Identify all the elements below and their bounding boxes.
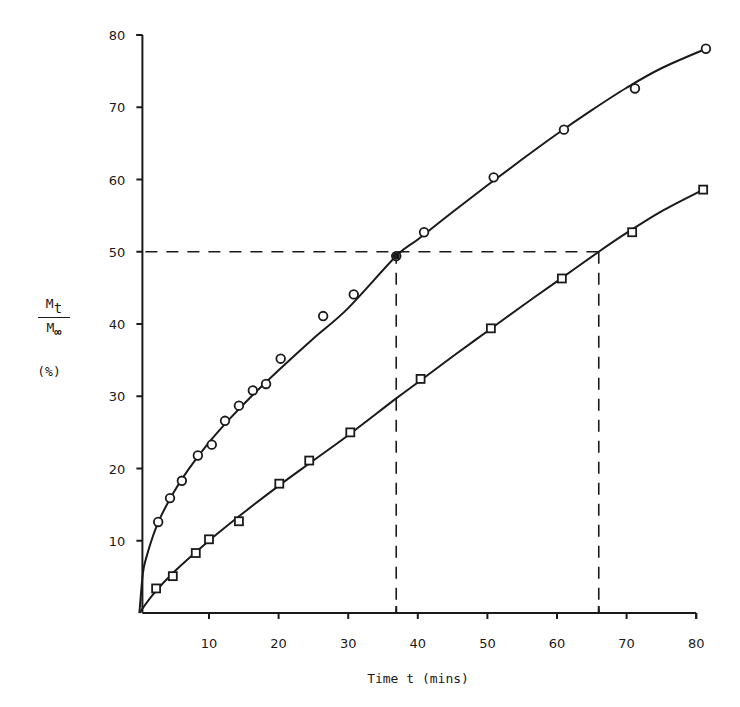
y-label-numerator-sub: t	[54, 300, 62, 316]
data-point-square	[235, 517, 243, 525]
x-tick-label: 10	[201, 636, 218, 651]
fit-curves	[139, 49, 706, 613]
data-point-circle	[194, 451, 203, 460]
data-markers	[152, 44, 710, 592]
y-tick-label: 60	[109, 173, 126, 188]
data-point-square	[628, 228, 636, 236]
data-point-circle	[249, 386, 258, 395]
data-point-circle	[560, 125, 569, 134]
data-point-square	[192, 549, 200, 557]
data-point-square	[558, 274, 566, 282]
y-tick-label: 40	[109, 317, 126, 332]
x-tick-label: 60	[549, 636, 566, 651]
x-tick-label: 30	[340, 636, 357, 651]
data-point-square	[205, 535, 213, 543]
data-point-circle	[221, 417, 230, 426]
y-tick-label: 80	[109, 28, 126, 43]
x-tick-label: 70	[618, 636, 635, 651]
data-point-square	[275, 480, 283, 488]
y-label-unit: (%)	[24, 364, 74, 379]
data-point-circle	[276, 354, 285, 363]
x-tick-label: 20	[270, 636, 287, 651]
dashed-guide-lines	[145, 252, 598, 613]
data-point-square	[417, 375, 425, 383]
data-point-circle	[702, 44, 711, 53]
y-axis-label: Mt M∞ (%)	[34, 296, 74, 379]
y-tick-label: 10	[109, 534, 126, 549]
y-label-numerator: M	[46, 296, 54, 311]
y-tick-label: 70	[109, 100, 126, 115]
data-point-circle	[349, 290, 358, 299]
data-point-circle	[319, 312, 328, 321]
y-tick-label: 50	[109, 245, 126, 260]
y-label-fraction-bar	[38, 317, 70, 318]
data-point-square	[699, 186, 707, 194]
data-point-circle	[207, 440, 216, 449]
data-point-circle	[420, 228, 429, 237]
data-point-circle	[178, 476, 187, 485]
data-point-square	[152, 584, 160, 592]
x-tick-label: 50	[479, 636, 496, 651]
data-point-square	[346, 428, 354, 436]
y-tick-label: 20	[109, 462, 126, 477]
data-point-circle	[235, 401, 244, 410]
y-tick-label: 30	[109, 389, 126, 404]
data-point-highlight	[393, 253, 400, 260]
data-point-circle	[631, 84, 640, 93]
x-axis-label: Time t (mins)	[367, 671, 469, 686]
data-point-square	[169, 572, 177, 580]
fit-curve-squares	[139, 190, 703, 613]
data-point-square	[487, 324, 495, 332]
data-point-circle	[166, 494, 175, 503]
x-tick-label: 40	[410, 636, 427, 651]
data-point-circle	[489, 173, 498, 182]
data-point-circle	[154, 518, 163, 527]
x-tick-label: 80	[688, 636, 705, 651]
y-label-denominator-sub: ∞	[54, 324, 61, 338]
data-point-circle	[262, 380, 271, 389]
chart: 10203040506070801020304050607080 Time t …	[0, 0, 740, 707]
data-point-square	[305, 457, 313, 465]
